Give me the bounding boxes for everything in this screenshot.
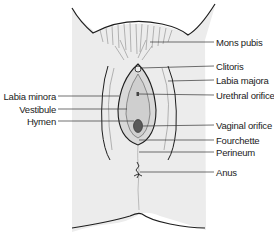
clitoris bbox=[135, 66, 141, 72]
label-mons-pubis: Mons pubis bbox=[216, 37, 263, 48]
label-hymen: Hymen bbox=[27, 116, 56, 127]
label-labia-minora: Labia minora bbox=[3, 91, 56, 102]
urethral-orifice bbox=[137, 92, 140, 96]
label-fourchette: Fourchette bbox=[216, 135, 259, 146]
label-labia-majora: Labia majora bbox=[216, 75, 269, 86]
label-vaginal-orifice: Vaginal orifice bbox=[216, 120, 272, 131]
label-perineum: Perineum bbox=[216, 147, 255, 158]
label-urethral-orifice: Urethral orifice bbox=[216, 90, 274, 101]
label-anus: Anus bbox=[216, 167, 237, 178]
label-vestibule: Vestibule bbox=[19, 104, 56, 115]
vaginal-orifice bbox=[134, 120, 143, 133]
label-clitoris: Clitoris bbox=[216, 61, 243, 72]
